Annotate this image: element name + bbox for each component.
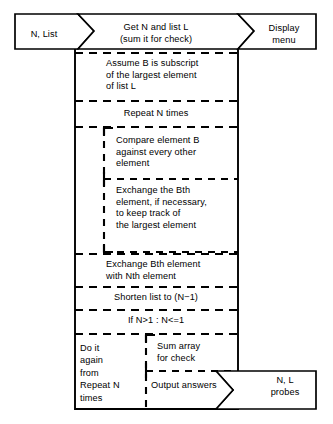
footer-sum-array-label: Sum array for check [157,341,233,364]
step-shorten-label: Shorten list to (N−1) [76,292,236,304]
flowchart-diagram: N, List Get N and list L (sum it for che… [0,0,333,424]
input-arrow-left-label: N, List [14,29,74,41]
step-condition-label: If N>1 : N<=1 [76,315,236,327]
step-exchange-nth-label: Exchange Bth element with Nth element [106,259,242,282]
output-arrow-top-label: Display menu [255,23,313,46]
step-assume-label: Assume B is subscript of the largest ele… [106,58,238,93]
header-label: Get N and list L (sum it for check) [76,22,236,45]
step-repeat-label: Repeat N times [76,108,236,120]
footer-left-branch-label: Do it again from Repeat N times [80,342,136,404]
step-compare-label: Compare element B against every other el… [116,135,240,170]
footer-output-answers-label: Output answers [151,380,239,392]
nested-box-corners [104,128,113,252]
step-exchange-bth-label: Exchange the Bth element, if necessary, … [116,185,242,231]
output-arrow-bottom-label: N, L probes [256,375,314,398]
